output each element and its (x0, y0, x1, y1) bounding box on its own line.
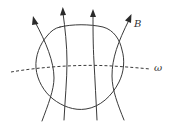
curve-label-omega: ω (154, 63, 162, 73)
field-line-4-arrowhead-icon (125, 14, 132, 23)
field-line-3 (93, 15, 97, 120)
omega-dashed-curve (11, 65, 150, 72)
diagram-canvas (0, 0, 170, 127)
field-line-1-arrowhead-icon (32, 16, 39, 25)
field-line-3-arrowhead-icon (90, 9, 96, 17)
field-line-2-arrowhead-icon (60, 7, 66, 16)
field-label-b: B (134, 19, 141, 29)
field-line-1 (35, 22, 54, 121)
